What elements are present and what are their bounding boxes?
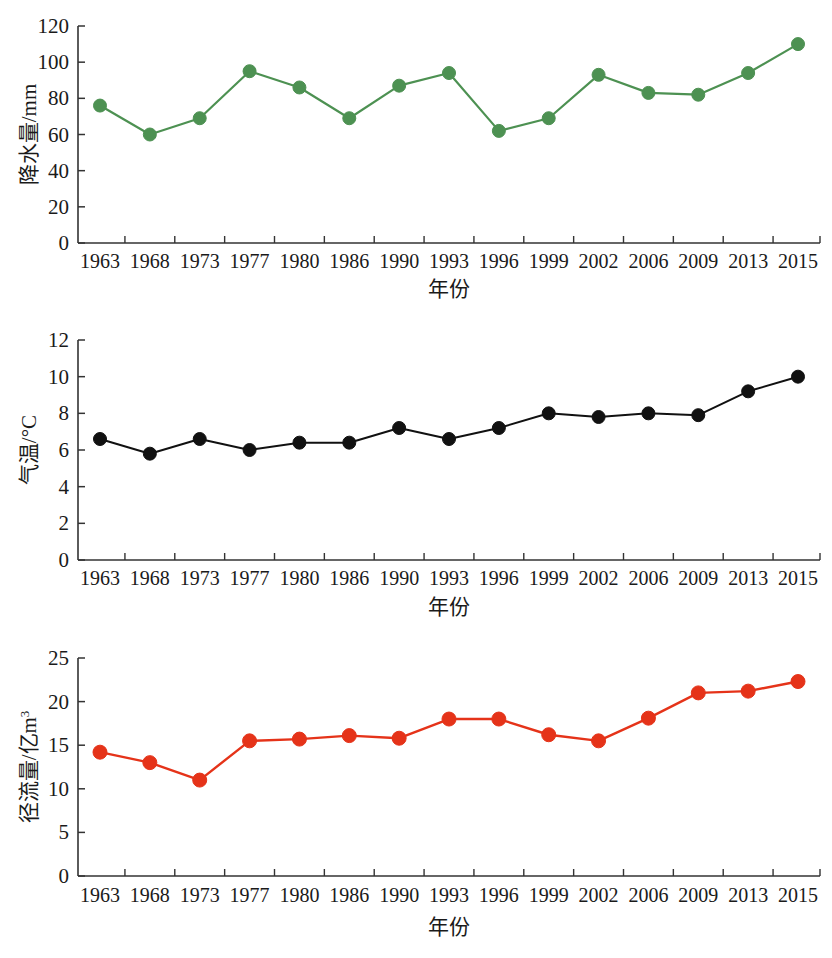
x-tick-label: 2006 bbox=[628, 884, 668, 906]
y-tick-label: 120 bbox=[38, 14, 70, 38]
data-point-marker bbox=[792, 38, 805, 51]
data-point-marker bbox=[692, 409, 705, 422]
data-point-marker bbox=[343, 112, 356, 125]
data-point-marker bbox=[492, 124, 505, 137]
y-tick-label: 10 bbox=[48, 365, 69, 389]
x-tick-label: 1999 bbox=[529, 884, 569, 906]
x-tick-label: 1999 bbox=[529, 567, 569, 589]
y-axis-title: 气温/°C bbox=[17, 415, 41, 485]
data-point-marker bbox=[443, 433, 456, 446]
data-point-marker bbox=[692, 88, 705, 101]
y-tick-label: 15 bbox=[48, 733, 69, 757]
data-point-marker bbox=[791, 675, 805, 689]
data-point-marker bbox=[592, 734, 606, 748]
data-point-marker bbox=[393, 79, 406, 92]
x-tick-label: 1990 bbox=[379, 250, 419, 272]
data-point-marker bbox=[143, 756, 157, 770]
x-axis-title: 年份 bbox=[428, 595, 470, 619]
data-point-marker bbox=[293, 81, 306, 94]
data-point-marker bbox=[342, 729, 356, 743]
x-tick-label: 1996 bbox=[479, 884, 519, 906]
x-tick-label: 2002 bbox=[579, 567, 619, 589]
y-tick-label: 0 bbox=[59, 548, 70, 572]
data-point-marker bbox=[93, 745, 107, 759]
x-tick-label: 1963 bbox=[80, 884, 120, 906]
y-tick-label: 40 bbox=[48, 159, 69, 183]
data-point-marker bbox=[143, 128, 156, 141]
x-tick-label: 2015 bbox=[778, 567, 818, 589]
chart-panel-precipitation: 0204060801001201963196819731977198019861… bbox=[0, 0, 832, 318]
data-point-marker bbox=[393, 422, 406, 435]
x-tick-label: 1977 bbox=[230, 567, 270, 589]
x-tick-label: 2015 bbox=[778, 884, 818, 906]
runoff-line-chart: 0510152025196319681973197719801986199019… bbox=[0, 636, 832, 958]
x-tick-label: 2009 bbox=[678, 567, 718, 589]
data-point-marker bbox=[343, 436, 356, 449]
x-tick-label: 1973 bbox=[180, 250, 220, 272]
data-point-marker bbox=[492, 422, 505, 435]
y-tick-label: 80 bbox=[48, 86, 69, 110]
data-point-marker bbox=[691, 686, 705, 700]
x-tick-label: 1980 bbox=[279, 250, 319, 272]
data-point-marker bbox=[392, 731, 406, 745]
x-tick-label: 2013 bbox=[728, 567, 768, 589]
data-point-marker bbox=[243, 734, 257, 748]
y-tick-label: 0 bbox=[59, 231, 70, 255]
data-point-marker bbox=[492, 712, 506, 726]
x-tick-label: 2013 bbox=[728, 250, 768, 272]
x-tick-label: 1990 bbox=[379, 567, 419, 589]
y-tick-label: 4 bbox=[59, 475, 70, 499]
x-tick-label: 1968 bbox=[130, 250, 170, 272]
data-point-marker bbox=[542, 112, 555, 125]
x-tick-label: 2015 bbox=[778, 250, 818, 272]
y-tick-label: 8 bbox=[59, 401, 70, 425]
x-tick-label: 2006 bbox=[628, 567, 668, 589]
data-point-marker bbox=[592, 411, 605, 424]
x-tick-label: 2009 bbox=[678, 884, 718, 906]
data-point-marker bbox=[193, 112, 206, 125]
y-tick-label: 100 bbox=[38, 50, 70, 74]
y-tick-label: 20 bbox=[48, 195, 69, 219]
data-point-marker bbox=[94, 99, 107, 112]
x-axis-title: 年份 bbox=[428, 915, 470, 939]
x-tick-label: 2009 bbox=[678, 250, 718, 272]
x-tick-label: 1963 bbox=[80, 567, 120, 589]
x-tick-label: 1973 bbox=[180, 884, 220, 906]
data-point-marker bbox=[742, 67, 755, 80]
data-point-marker bbox=[742, 385, 755, 398]
y-tick-label: 12 bbox=[48, 328, 69, 352]
y-tick-label: 2 bbox=[59, 511, 70, 535]
data-point-marker bbox=[243, 65, 256, 78]
data-point-marker bbox=[292, 732, 306, 746]
x-tick-label: 1993 bbox=[429, 884, 469, 906]
x-tick-label: 1963 bbox=[80, 250, 120, 272]
data-point-marker bbox=[442, 712, 456, 726]
x-tick-label: 2002 bbox=[579, 884, 619, 906]
x-tick-label: 2013 bbox=[728, 884, 768, 906]
data-point-marker bbox=[642, 86, 655, 99]
data-point-marker bbox=[642, 407, 655, 420]
x-tick-label: 1968 bbox=[130, 884, 170, 906]
y-tick-label: 25 bbox=[48, 646, 69, 670]
data-point-marker bbox=[792, 370, 805, 383]
y-tick-label: 0 bbox=[59, 864, 70, 888]
x-tick-label: 1977 bbox=[230, 884, 270, 906]
chart-panel-temperature: 0246810121963196819731977198019861990199… bbox=[0, 318, 832, 636]
figure-stack: 0204060801001201963196819731977198019861… bbox=[0, 0, 832, 958]
x-tick-label: 1986 bbox=[329, 567, 369, 589]
y-axis-title: 径流量/亿m3 bbox=[17, 711, 41, 824]
x-axis-title: 年份 bbox=[428, 277, 470, 301]
data-point-marker bbox=[641, 711, 655, 725]
x-tick-label: 1993 bbox=[429, 250, 469, 272]
precipitation-line-chart: 0204060801001201963196819731977198019861… bbox=[0, 0, 832, 318]
x-tick-label: 1973 bbox=[180, 567, 220, 589]
data-point-marker bbox=[741, 684, 755, 698]
data-point-marker bbox=[542, 728, 556, 742]
data-point-marker bbox=[143, 447, 156, 460]
data-point-marker bbox=[193, 433, 206, 446]
x-tick-label: 1980 bbox=[279, 567, 319, 589]
x-tick-label: 1990 bbox=[379, 884, 419, 906]
x-tick-label: 1999 bbox=[529, 250, 569, 272]
x-tick-label: 1986 bbox=[329, 250, 369, 272]
x-tick-label: 1986 bbox=[329, 884, 369, 906]
